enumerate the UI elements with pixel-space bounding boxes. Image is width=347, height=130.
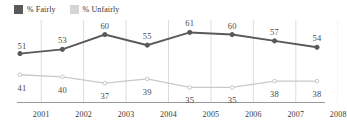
x-tick-2003: 2003: [118, 110, 135, 119]
legend-swatch-icon: [14, 5, 23, 14]
data-label-unfairly: 39: [143, 87, 152, 97]
plot-svg: [0, 20, 338, 104]
data-label-unfairly: 37: [100, 91, 109, 101]
data-point-marker: [273, 79, 277, 83]
data-point-marker: [315, 79, 319, 83]
data-point-marker: [188, 86, 192, 90]
data-point-marker: [230, 86, 234, 90]
data-label-fairly: 57: [270, 27, 279, 37]
data-label-fairly: 61: [185, 18, 194, 28]
data-point-marker: [272, 39, 276, 43]
legend-item-unfairly[interactable]: % Unfairly: [70, 5, 120, 14]
legend-swatch-icon: [70, 5, 79, 14]
data-point-marker: [18, 52, 22, 56]
data-point-marker: [103, 32, 107, 36]
x-axis: 20012002200320042005200620072008: [0, 104, 338, 130]
legend-label-fairly: % Fairly: [27, 5, 56, 14]
data-label-unfairly: 38: [270, 89, 279, 99]
chart-legend: % Fairly % Unfairly: [14, 3, 133, 16]
data-point-marker: [18, 73, 22, 77]
data-label-fairly: 54: [313, 33, 322, 43]
x-tick-2001: 2001: [33, 110, 50, 119]
x-tick-2008: 2008: [330, 110, 347, 119]
data-point-marker: [230, 32, 234, 36]
x-tick-2007: 2007: [287, 110, 304, 119]
data-point-marker: [315, 45, 319, 49]
data-label-fairly: 60: [100, 21, 109, 31]
data-point-marker: [61, 75, 65, 79]
data-label-fairly: 51: [18, 41, 27, 51]
x-tick-2005: 2005: [203, 110, 220, 119]
data-label-unfairly: 38: [313, 89, 322, 99]
data-label-fairly: 53: [58, 35, 67, 45]
data-label-unfairly: 40: [58, 85, 67, 95]
x-tick-2002: 2002: [75, 110, 92, 119]
x-tick-2006: 2006: [245, 110, 262, 119]
data-point-marker: [103, 81, 107, 85]
data-point-marker: [145, 77, 149, 81]
data-label-fairly: 60: [228, 21, 237, 31]
data-point-marker: [60, 47, 64, 51]
x-tick-2004: 2004: [160, 110, 177, 119]
data-label-fairly: 55: [143, 31, 152, 41]
legend-item-fairly[interactable]: % Fairly: [14, 5, 56, 14]
data-point-marker: [145, 43, 149, 47]
plot-area: [0, 20, 338, 104]
data-point-marker: [188, 30, 192, 34]
legend-label-unfairly: % Unfairly: [83, 5, 120, 14]
data-label-unfairly: 41: [18, 83, 27, 93]
